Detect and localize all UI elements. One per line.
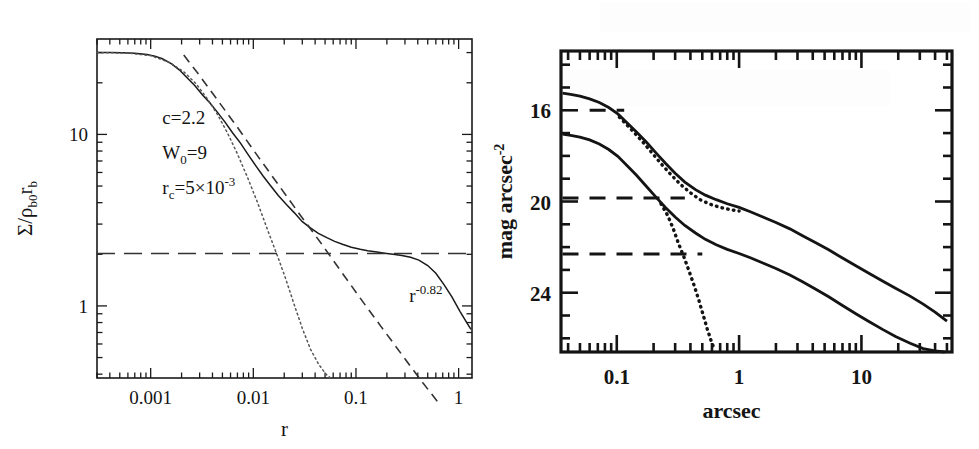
left-panel-svg: 0.0010.010.11101rΣ/ρb0rbc=2.2W0=9rc=5×10… (0, 0, 490, 449)
svg-text:mag arcsec-2: mag arcsec-2 (492, 144, 517, 260)
left-annotation-king-potential: W0=9 (162, 142, 207, 167)
left-xaxis-title: r (281, 417, 288, 441)
left-yticklabel: 10 (69, 124, 88, 145)
right-xticklabel: 1 (734, 365, 745, 389)
right-yticklabel: 24 (530, 282, 552, 306)
left-yaxis-title: Σ/ρb0rb (13, 181, 40, 236)
right-series-bright-profile-solid (563, 93, 947, 321)
right-xaxis-title: arcsec (702, 398, 760, 423)
figure-container: 0.0010.010.11101rΣ/ρb0rbc=2.2W0=9rc=5×10… (0, 0, 979, 449)
right-plot-frame (561, 51, 952, 352)
right-yticklabel: 20 (530, 191, 551, 215)
right-series-deconvolved-faint-dotted (661, 204, 715, 350)
left-panel: 0.0010.010.11101rΣ/ρb0rbc=2.2W0=9rc=5×10… (0, 0, 490, 449)
left-annotation-power-law-slope: r-0.82 (409, 282, 442, 306)
right-xticklabel: 0.1 (604, 365, 630, 389)
left-xticklabel: 0.1 (344, 387, 368, 408)
left-plot-frame (97, 39, 472, 378)
left-yticklabel: 1 (79, 296, 89, 317)
left-xticklabel: 0.001 (129, 387, 172, 408)
right-yticklabel: 16 (530, 99, 551, 123)
left-annotation-concentration: c=2.2 (162, 107, 205, 128)
left-xticklabel: 1 (454, 387, 464, 408)
right-panel-svg: 0.1110162024arcsecmag arcsec-2 (490, 0, 979, 449)
right-xticklabel: 10 (851, 365, 872, 389)
right-series-faint-profile-solid (563, 134, 945, 352)
right-yaxis-title: mag arcsec-2 (492, 144, 517, 260)
left-xticklabel: 0.01 (237, 387, 270, 408)
left-annotation-core-radius: rc=5×10-3 (162, 174, 235, 202)
left-series-power-law-fit (184, 55, 440, 404)
right-panel: 0.1110162024arcsecmag arcsec-2 (490, 0, 979, 449)
svg-text:Σ/ρb0rb: Σ/ρb0rb (13, 181, 40, 236)
